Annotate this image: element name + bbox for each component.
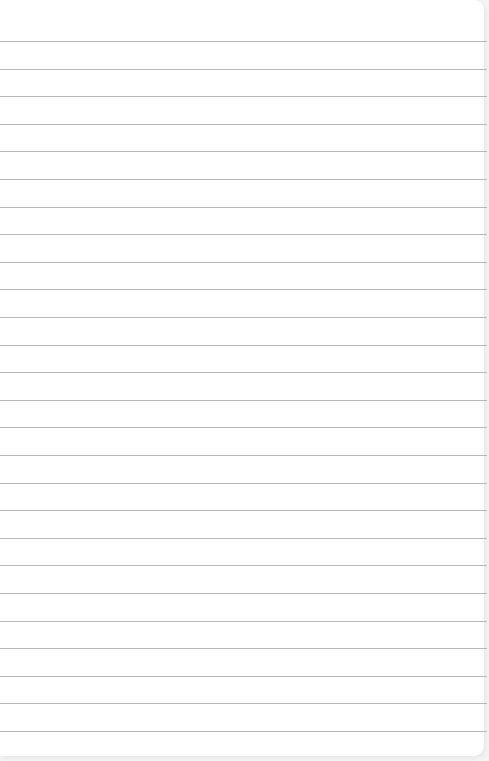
ruled-line (0, 593, 487, 594)
ruled-line (0, 510, 487, 511)
ruled-line (0, 372, 487, 373)
ruled-line (0, 124, 487, 125)
ruled-line (0, 703, 487, 704)
ruled-line (0, 455, 487, 456)
ruled-line (0, 676, 487, 677)
ruled-line (0, 400, 487, 401)
lined-paper (0, 0, 484, 756)
ruled-line (0, 234, 487, 235)
ruled-line (0, 345, 487, 346)
ruled-line (0, 151, 487, 152)
ruled-line (0, 483, 487, 484)
ruled-line (0, 427, 487, 428)
ruled-line (0, 207, 487, 208)
ruled-line (0, 565, 487, 566)
ruled-line (0, 41, 487, 42)
ruled-line (0, 289, 487, 290)
ruled-line (0, 69, 487, 70)
ruled-line (0, 96, 487, 97)
ruled-line (0, 621, 487, 622)
ruled-line (0, 317, 487, 318)
ruled-line (0, 538, 487, 539)
ruled-line (0, 731, 487, 732)
ruled-line (0, 179, 487, 180)
ruled-line (0, 648, 487, 649)
ruled-line (0, 262, 487, 263)
